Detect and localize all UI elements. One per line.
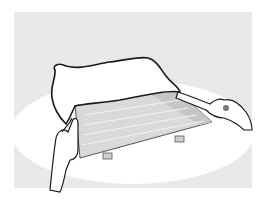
illustration-svg (0, 0, 266, 201)
tray-foot (175, 136, 184, 142)
thumb-nail (223, 105, 229, 111)
illustration (0, 0, 266, 201)
tray-foot (103, 153, 112, 159)
